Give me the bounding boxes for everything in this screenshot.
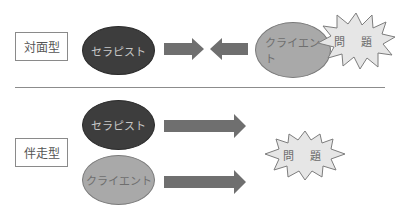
accompanying-label-text: 伴走型	[24, 144, 60, 161]
client-label: クライエント	[86, 172, 152, 188]
face-to-face-therapist-ellipse: セラピスト	[82, 26, 155, 75]
face-to-face-label-text: 対面型	[24, 38, 60, 55]
arrow-right-icon	[164, 38, 204, 60]
accompanying-type-label: 伴走型	[15, 138, 68, 167]
section-divider	[15, 87, 385, 88]
face-to-face-type-label: 対面型	[15, 32, 68, 61]
arrow-left-icon	[210, 38, 248, 60]
accompanying-problem-text: 問 題	[264, 128, 346, 182]
arrow-right-icon	[164, 114, 246, 138]
therapist-label: セラピスト	[91, 43, 146, 59]
face-to-face-problem-text: 問 題	[316, 11, 396, 71]
therapist-label: セラピスト	[91, 117, 146, 133]
accompanying-client-ellipse: クライエント	[82, 155, 155, 205]
accompanying-therapist-ellipse: セラピスト	[82, 100, 155, 150]
arrow-right-icon	[164, 170, 246, 194]
